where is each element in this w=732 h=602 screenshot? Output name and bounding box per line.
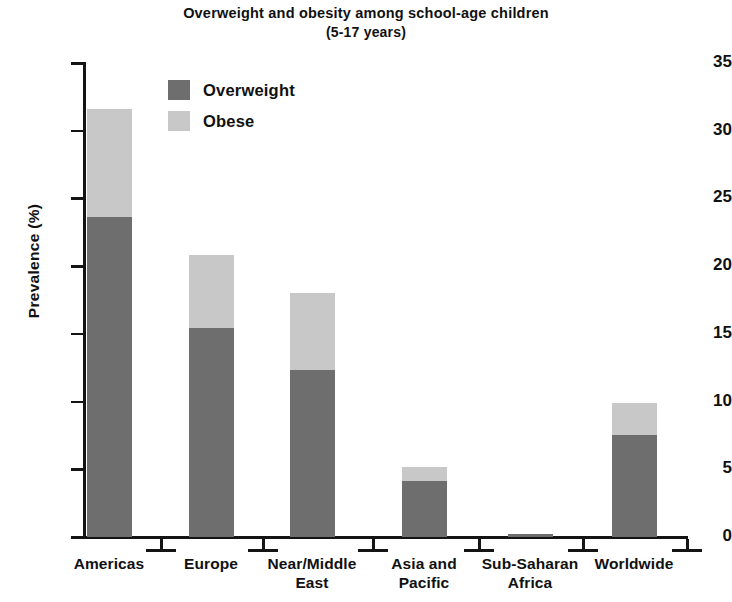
bar-segment-obese[interactable] xyxy=(290,293,335,370)
legend-swatch-obese xyxy=(168,111,190,131)
legend-label-obese: Obese xyxy=(203,112,254,131)
chart-legend: Overweight Obese xyxy=(168,80,295,142)
y-tick-mark xyxy=(71,265,84,268)
x-tick-foot xyxy=(358,549,388,552)
y-tick-mark xyxy=(71,333,84,336)
y-tick-mark xyxy=(71,536,84,539)
x-tick-foot xyxy=(146,549,176,552)
y-tick-mark xyxy=(71,130,84,133)
x-axis-label-line: Near/Middle xyxy=(250,554,374,573)
chart-subtitle: (5-17 years) xyxy=(0,23,732,42)
bar-europe[interactable] xyxy=(189,255,234,537)
x-tick-foot xyxy=(672,549,702,552)
bar-segment-overweight[interactable] xyxy=(290,370,335,537)
x-tick-foot xyxy=(248,549,278,552)
bar-segment-overweight[interactable] xyxy=(402,481,447,537)
chart-title: Overweight and obesity among school-age … xyxy=(0,4,732,23)
bar-near-middle-east[interactable] xyxy=(290,293,335,537)
x-axis-label-line: Africa xyxy=(468,573,592,592)
bar-segment-overweight[interactable] xyxy=(508,534,553,537)
bar-segment-obese[interactable] xyxy=(189,255,234,328)
x-axis-label-worldwide: Worldwide xyxy=(572,554,696,573)
y-tick-mark xyxy=(71,401,84,404)
y-tick-mark xyxy=(71,62,84,65)
bar-segment-overweight[interactable] xyxy=(612,435,657,537)
x-tick-foot xyxy=(568,549,598,552)
bar-sub-saharan-africa[interactable] xyxy=(508,534,553,537)
y-axis-title: Prevalence (%) xyxy=(25,161,43,361)
legend-swatch-overweight xyxy=(168,80,190,100)
bar-americas[interactable] xyxy=(87,109,132,537)
bar-segment-obese[interactable] xyxy=(612,403,657,436)
bar-segment-obese[interactable] xyxy=(402,467,447,482)
bar-segment-obese[interactable] xyxy=(87,109,132,217)
x-axis-label-line: Worldwide xyxy=(572,554,696,573)
y-tick-mark xyxy=(71,468,84,471)
legend-item-obese: Obese xyxy=(168,111,295,131)
bar-worldwide[interactable] xyxy=(612,403,657,537)
x-axis-label-near-middle-east: Near/MiddleEast xyxy=(250,554,374,592)
bar-segment-overweight[interactable] xyxy=(189,328,234,537)
chart-figure: Overweight and obesity among school-age … xyxy=(0,0,732,602)
chart-title-block: Overweight and obesity among school-age … xyxy=(0,4,732,42)
x-axis-label-line: East xyxy=(250,573,374,592)
bar-segment-overweight[interactable] xyxy=(87,217,132,537)
bar-asia-and-pacific[interactable] xyxy=(402,467,447,537)
legend-item-overweight: Overweight xyxy=(168,80,295,100)
y-tick-mark xyxy=(71,197,84,200)
x-tick-foot xyxy=(464,549,494,552)
legend-label-overweight: Overweight xyxy=(203,81,295,100)
